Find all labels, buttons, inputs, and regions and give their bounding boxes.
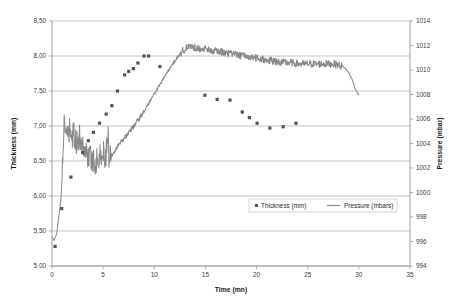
data-point-marker bbox=[142, 54, 145, 57]
x-tick-label: 0 bbox=[50, 271, 54, 278]
chart-container: 5,005,506,006,507,007,508,008,50 9949969… bbox=[0, 0, 458, 301]
legend-marker-thickness bbox=[255, 204, 258, 207]
data-point-marker bbox=[92, 131, 95, 134]
data-point-marker bbox=[203, 94, 206, 97]
y2-tick-label: 998 bbox=[416, 213, 427, 220]
y2-tick-label: 1012 bbox=[416, 42, 431, 49]
x-tick-label: 15 bbox=[202, 271, 210, 278]
data-point-marker bbox=[282, 125, 285, 128]
legend-label-pressure: Pressure (mbars) bbox=[344, 202, 393, 210]
y2-tick-label: 1006 bbox=[416, 115, 431, 122]
y2-tick-label: 1002 bbox=[416, 164, 431, 171]
data-point-marker bbox=[228, 99, 231, 102]
y2-axis-tick-labels: 9949969981000100210041006100810101012101… bbox=[416, 17, 431, 269]
y2-tick-label: 1004 bbox=[416, 140, 431, 147]
y-tick-label: 8,50 bbox=[34, 17, 47, 24]
data-point-marker bbox=[69, 176, 72, 179]
data-point-marker bbox=[53, 245, 56, 248]
data-point-marker bbox=[136, 61, 139, 64]
y-axis-tick-labels: 5,005,506,006,507,007,508,008,50 bbox=[34, 17, 47, 269]
y2-tick-label: 1014 bbox=[416, 17, 431, 24]
data-point-marker bbox=[248, 116, 251, 119]
gridlines bbox=[52, 21, 410, 266]
data-point-marker bbox=[110, 104, 113, 107]
y-tick-label: 8,00 bbox=[34, 52, 47, 59]
data-point-marker bbox=[123, 73, 126, 76]
data-point-marker bbox=[158, 65, 161, 68]
data-point-marker bbox=[255, 122, 258, 125]
x-tick-label: 30 bbox=[355, 271, 363, 278]
x-axis-title: Time (mn) bbox=[215, 286, 247, 294]
data-point-marker bbox=[268, 127, 271, 130]
data-point-marker bbox=[241, 110, 244, 113]
y-axis-title: Thickness (mm) bbox=[10, 118, 18, 170]
data-point-marker bbox=[132, 67, 135, 70]
legend-label-thickness: Thickness (mm) bbox=[261, 202, 306, 210]
data-point-marker bbox=[127, 70, 130, 73]
x-tick-label: 25 bbox=[304, 271, 312, 278]
data-point-marker bbox=[116, 89, 119, 92]
y-tick-label: 7,00 bbox=[34, 122, 47, 129]
x-tick-label: 20 bbox=[253, 271, 261, 278]
combination-chart: 5,005,506,006,507,007,508,008,50 9949969… bbox=[0, 0, 458, 301]
data-point-marker bbox=[87, 139, 90, 142]
y-tick-label: 5,50 bbox=[34, 227, 47, 234]
chart-legend: Thickness (mm)Pressure (mbars) bbox=[249, 199, 397, 212]
x-tick-label: 10 bbox=[151, 271, 159, 278]
x-axis-tick-labels: 05101520253035 bbox=[50, 271, 414, 278]
pressure-line-series bbox=[52, 44, 359, 240]
axis-lines bbox=[52, 21, 410, 266]
y2-tick-label: 1010 bbox=[416, 66, 431, 73]
data-point-marker bbox=[216, 98, 219, 101]
data-point-marker bbox=[60, 207, 63, 210]
y2-tick-label: 996 bbox=[416, 238, 427, 245]
y-tick-label: 6,00 bbox=[34, 192, 47, 199]
x-tick-label: 5 bbox=[101, 271, 105, 278]
data-point-marker bbox=[98, 122, 101, 125]
y-tick-label: 7,50 bbox=[34, 87, 47, 94]
y2-tick-label: 1000 bbox=[416, 189, 431, 196]
data-point-marker bbox=[105, 113, 108, 116]
y2-tick-label: 994 bbox=[416, 262, 427, 269]
data-point-marker bbox=[147, 54, 150, 57]
x-tick-label: 35 bbox=[406, 271, 414, 278]
pressure-line-path bbox=[52, 44, 359, 240]
y-tick-label: 6,50 bbox=[34, 157, 47, 164]
thickness-scatter-series bbox=[53, 54, 297, 248]
y-tick-label: 5,00 bbox=[34, 262, 47, 269]
y2-axis-title: Pressure (mbar) bbox=[436, 117, 444, 169]
data-point-marker bbox=[294, 122, 297, 125]
data-point-marker bbox=[81, 151, 84, 154]
y2-tick-label: 1008 bbox=[416, 91, 431, 98]
